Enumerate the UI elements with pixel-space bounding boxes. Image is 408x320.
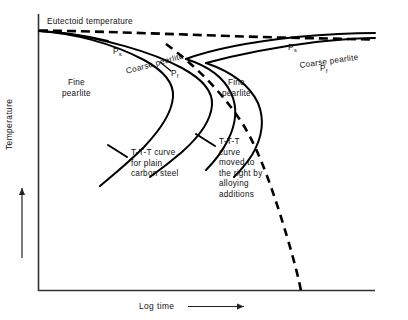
alloying-additions-note: T-T-T curve moved to the right by alloyi… [219,137,263,200]
ttt-plot-area [0,0,408,320]
left-ps-subscript: s [119,50,122,57]
plain-carbon-steel-note: T-T-T curve for plain carbon steel [131,148,179,180]
right-ps-label: Ps [288,43,297,54]
right-ps-subscript: s [294,46,297,53]
left-pf-label: Pf [171,69,179,80]
alloy-note-leader-line [196,134,215,146]
x-axis-title: Log time [139,301,174,312]
ttt-diagram-figure: Eutectoid temperature Temperature Log ti… [0,0,408,320]
left-ps-letter: P [113,47,119,56]
right-fine-pearlite-label: Fine pearlite [222,78,251,99]
left-ps-label: Ps [113,47,122,58]
left-pf-subscript: f [177,72,179,79]
plain-steel-leader-line [108,145,127,157]
eutectoid-temperature-label: Eutectoid temperature [47,17,133,28]
axis-lines [38,14,375,291]
left-fine-pearlite-label: Fine pearlite [62,78,91,99]
right-ps-letter: P [288,43,294,52]
y-axis-title: Temperature [4,99,15,150]
left-pf-letter: P [171,69,177,78]
